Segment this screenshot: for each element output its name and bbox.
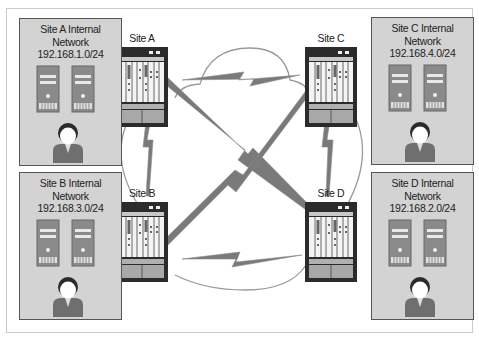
- server-icon: [389, 65, 411, 111]
- site-d-internal-network-box: Site D Internal Network 192.168.2.0/24: [371, 172, 474, 320]
- router-site-b-icon: [116, 202, 168, 282]
- router-label-site-d: Site D: [301, 187, 361, 199]
- router-site-c-icon: [305, 47, 357, 127]
- site-b-internal-network-box: Site B Internal Network 192.168.3.0/24: [19, 172, 122, 320]
- router-label-site-a: Site A: [112, 32, 172, 44]
- wan-links: [143, 72, 333, 267]
- router-site-a-icon: [116, 47, 168, 127]
- server-icon: [389, 220, 411, 266]
- link-b-d-lightning-icon: [182, 252, 302, 267]
- user-icon: [405, 122, 435, 162]
- site-d-hosts: [372, 173, 475, 321]
- server-icon: [424, 65, 446, 111]
- user-icon: [53, 123, 83, 163]
- server-icon: [37, 66, 59, 112]
- user-icon: [53, 277, 83, 317]
- site-b-hosts: [20, 173, 123, 321]
- server-icon: [424, 220, 446, 266]
- user-icon: [405, 277, 435, 317]
- site-a-hosts: [20, 19, 123, 167]
- site-a-internal-network-box: Site A Internal Network 192.168.1.0/24: [19, 18, 122, 166]
- server-icon: [72, 66, 94, 112]
- link-b-c-lightning-icon: [156, 80, 318, 253]
- server-icon: [72, 220, 94, 266]
- router-label-site-b: Site B: [112, 187, 172, 199]
- site-c-internal-network-box: Site C Internal Network 192.168.4.0/24: [371, 17, 474, 165]
- link-a-d-lightning-icon: [160, 76, 316, 215]
- router-label-site-c: Site C: [301, 32, 361, 44]
- server-icon: [37, 220, 59, 266]
- router-site-d-icon: [305, 202, 357, 282]
- site-c-hosts: [372, 18, 475, 166]
